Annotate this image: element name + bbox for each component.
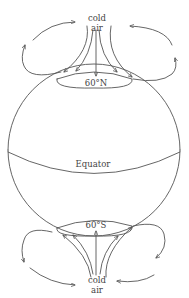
equator-label: Equator: [76, 160, 111, 169]
north-air-label: air: [91, 24, 103, 33]
south-air-label: air: [91, 286, 103, 295]
south-cold-label: cold: [88, 276, 106, 285]
south-east-circulation-loop: [117, 224, 165, 282]
globe-outline-top: [8, 64, 180, 150]
north-cold-air-arrows: [64, 26, 132, 77]
north-east-circulation-loop: [130, 26, 176, 81]
north-west-circulation-loop: [22, 22, 75, 75]
south-latitude-label: 60°S: [86, 221, 107, 230]
globe: [8, 64, 180, 236]
north-latitude-label: 60°N: [85, 79, 108, 88]
globe-diagram-graphic: [0, 0, 189, 298]
circulation-diagram: cold air 60°N Equator 60°S cold air: [0, 0, 189, 298]
north-cold-label: cold: [88, 14, 106, 23]
